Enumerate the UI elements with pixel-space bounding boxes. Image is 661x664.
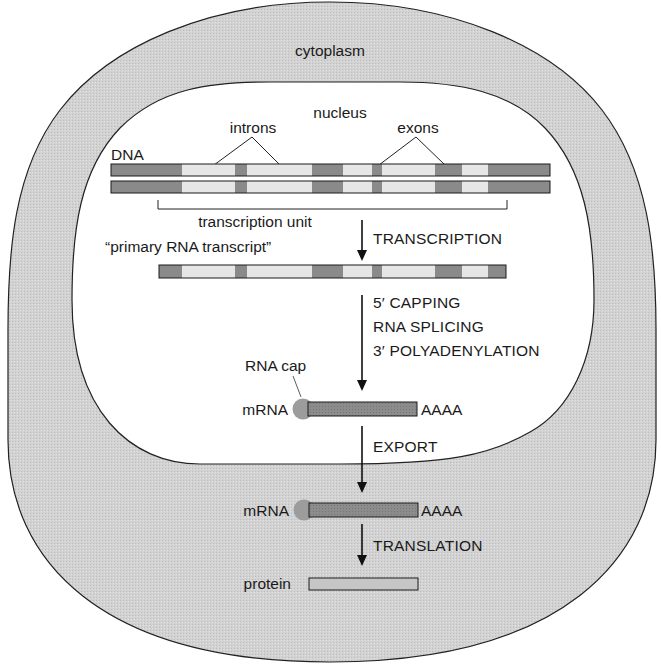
cytoplasmic-mrna-bar	[309, 503, 418, 517]
rna-cap-label: RNA cap	[245, 357, 306, 374]
capping-step-label: 5′ CAPPING	[373, 294, 461, 311]
exon-segment	[382, 164, 435, 176]
nuclear-mrna-bar	[308, 402, 417, 416]
intron-segment	[159, 265, 182, 278]
export-step-label: EXPORT	[373, 438, 438, 455]
intron-segment	[235, 164, 247, 176]
intron-segment	[312, 181, 343, 193]
exon-segment	[382, 265, 435, 278]
intron-segment	[435, 181, 462, 193]
exon-segment	[247, 164, 312, 176]
exon-segment	[182, 164, 235, 176]
cytoplasm-label: cytoplasm	[295, 42, 365, 59]
intron-segment	[312, 265, 343, 278]
exon-segment	[343, 181, 372, 193]
intron-segment	[488, 265, 506, 278]
intron-segment	[372, 265, 382, 278]
intron-segment	[372, 181, 382, 193]
exon-segment	[343, 265, 372, 278]
nuclear-mrna-label: mRNA	[242, 401, 288, 418]
protein-label: protein	[244, 575, 291, 592]
dna-label: DNA	[111, 146, 144, 163]
splicing-step-label: RNA SPLICING	[373, 318, 484, 335]
flank-segment	[488, 164, 550, 176]
primary-rna-transcript	[159, 265, 506, 278]
intron-segment	[312, 164, 343, 176]
protein-bar	[309, 578, 418, 590]
intron-segment	[235, 181, 247, 193]
intron-segment	[435, 265, 462, 278]
gene-expression-diagram: cytoplasm nucleus introns exons DNA tran…	[0, 0, 661, 664]
cytoplasmic-mrna-label: mRNA	[243, 502, 289, 519]
transcription-unit-label: transcription unit	[198, 213, 312, 230]
primary-transcript-label: “primary RNA transcript”	[105, 238, 271, 255]
exon-segment	[462, 265, 488, 278]
introns-label: introns	[230, 119, 277, 136]
flank-segment	[111, 181, 182, 193]
transcription-step-label: TRANSCRIPTION	[373, 230, 502, 247]
exon-segment	[247, 181, 312, 193]
exons-label: exons	[397, 119, 439, 136]
exon-segment	[182, 265, 235, 278]
translation-step-label: TRANSLATION	[373, 537, 483, 554]
nucleus-label: nucleus	[313, 104, 367, 121]
exon-segment	[247, 265, 312, 278]
cytoplasmic-polya-tail: AAAA	[421, 502, 463, 519]
intron-segment	[372, 164, 382, 176]
exon-segment	[382, 181, 435, 193]
flank-segment	[111, 164, 182, 176]
exon-segment	[462, 181, 488, 193]
flank-segment	[488, 181, 550, 193]
intron-segment	[435, 164, 462, 176]
exon-segment	[182, 181, 235, 193]
intron-segment	[235, 265, 247, 278]
exon-segment	[343, 164, 372, 176]
polyadenylation-step-label: 3′ POLYADENYLATION	[373, 342, 540, 359]
exon-segment	[462, 164, 488, 176]
nuclear-polya-tail: AAAA	[421, 401, 463, 418]
